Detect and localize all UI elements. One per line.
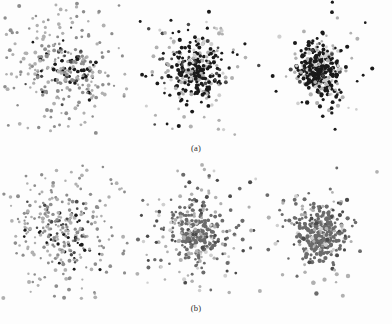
- panel-b-3: [255, 162, 385, 302]
- scatter-figure: (a) (b): [0, 0, 392, 324]
- panel-b-1: [0, 162, 130, 302]
- figure-row-b: (b): [0, 162, 392, 324]
- panel-a-2: [131, 0, 261, 140]
- subfigure-caption-a: (a): [0, 143, 392, 153]
- panel-a-1-points: [0, 0, 130, 140]
- figure-row-a: (a): [0, 0, 392, 162]
- panel-b-2-points: [131, 162, 261, 302]
- panel-a-3-points: [255, 0, 385, 140]
- panel-b-2: [131, 162, 261, 302]
- panel-a-1: [0, 0, 130, 140]
- panel-b-3-points: [255, 162, 385, 302]
- panel-a-2-points: [131, 0, 261, 140]
- panel-b-1-points: [0, 162, 130, 302]
- panel-a-3: [255, 0, 385, 140]
- subfigure-caption-b: (b): [0, 303, 392, 313]
- panel-group-b: [0, 162, 392, 302]
- panel-group-a: [0, 0, 392, 140]
